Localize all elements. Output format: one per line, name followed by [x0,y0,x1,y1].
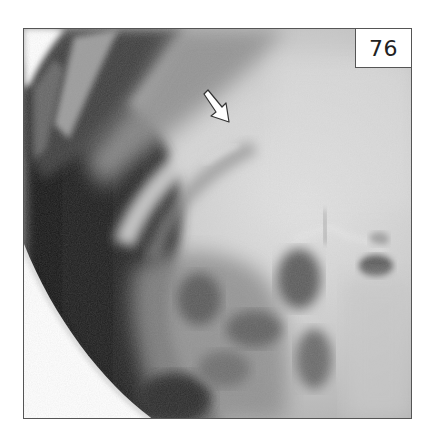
figure-number-label: 76 [355,28,412,68]
radiograph-figure: 76 [23,28,412,419]
arrow-annotation-icon [200,89,232,125]
figure-number-text: 76 [369,36,398,61]
radiograph-image [24,29,412,419]
